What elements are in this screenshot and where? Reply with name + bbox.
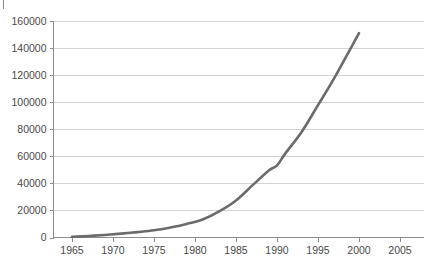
x-tick-label-1975: 1975 — [142, 244, 166, 256]
x-tick-label-1995: 1995 — [306, 244, 330, 256]
line-chart: 0200004000060000800001000001200001400001… — [0, 0, 435, 268]
x-tick-label-1980: 1980 — [183, 244, 207, 256]
y-axis-tick-labels: 0200004000060000800001000001200001400001… — [11, 15, 46, 244]
y-tick-label-20000: 20000 — [17, 204, 46, 216]
y-tick-label-120000: 120000 — [11, 69, 46, 81]
y-tick-label-0: 0 — [41, 231, 47, 243]
y-tick-label-80000: 80000 — [17, 123, 46, 135]
y-tick-label-140000: 140000 — [11, 42, 46, 54]
chart-container: 0200004000060000800001000001200001400001… — [0, 0, 435, 268]
chart-background — [0, 0, 435, 268]
y-tick-label-60000: 60000 — [17, 150, 46, 162]
x-tick-label-1990: 1990 — [265, 244, 289, 256]
x-tick-label-2005: 2005 — [388, 244, 412, 256]
y-tick-label-40000: 40000 — [17, 177, 46, 189]
x-tick-label-1965: 1965 — [60, 244, 84, 256]
x-tick-label-1970: 1970 — [101, 244, 125, 256]
x-axis-tick-labels: 196519701975198019851990199520002005 — [60, 244, 412, 256]
x-tick-label-1985: 1985 — [224, 244, 248, 256]
y-tick-label-160000: 160000 — [11, 15, 46, 27]
x-tick-label-2000: 2000 — [347, 244, 371, 256]
y-tick-label-100000: 100000 — [11, 96, 46, 108]
